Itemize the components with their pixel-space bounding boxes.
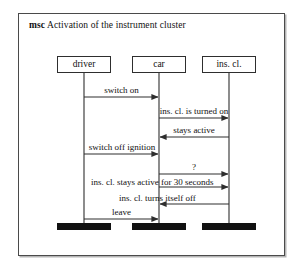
message-label-turns-itself-off: ins. cl. turns itself off xyxy=(119,193,271,203)
msc-frame: msc Activation of the instrument cluster… xyxy=(18,13,285,256)
lifeline-head-ins-cl[interactable]: ins. cl. xyxy=(202,56,256,73)
message-label-switch-off-ignition: switch off ignition xyxy=(68,142,176,152)
lifeline-head-car-label: car xyxy=(153,59,165,69)
message-label-leave: leave xyxy=(84,207,159,217)
diagram-lines-layer xyxy=(19,14,284,255)
termination-bar-driver xyxy=(57,223,111,230)
lifeline-head-driver-label: driver xyxy=(73,59,96,69)
lifeline-head-ins-cl-label: ins. cl. xyxy=(216,59,241,69)
message-label-ins-cl-is-turned-on: ins. cl. is turned on xyxy=(129,106,259,116)
lifeline-head-car[interactable]: car xyxy=(132,56,186,73)
msc-diagram-root: msc Activation of the instrument cluster… xyxy=(0,0,302,271)
message-label-switch-on: switch on xyxy=(84,85,159,95)
lifeline-head-driver[interactable]: driver xyxy=(57,56,111,73)
diagram-canvas: driver car ins. cl. xyxy=(19,14,284,255)
message-label-stays-active: stays active xyxy=(159,125,229,135)
termination-bar-ins-cl xyxy=(202,223,256,230)
message-label-stays-active-30-seconds: ins. cl. stays active for 30 seconds xyxy=(91,177,279,187)
termination-bar-car xyxy=(132,223,186,230)
message-label-question: ? xyxy=(159,162,229,172)
